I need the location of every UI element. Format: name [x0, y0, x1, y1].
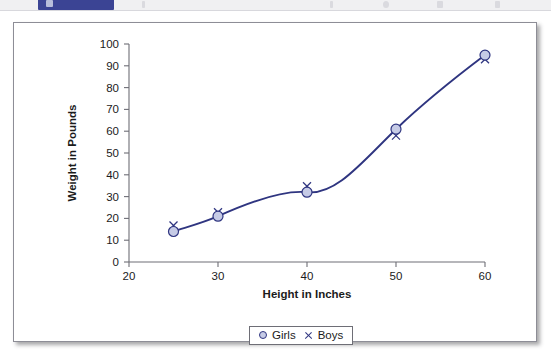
header-ghost-text-1: [142, 1, 145, 8]
series-boys-markers: [170, 55, 490, 229]
header-divider: [0, 10, 551, 11]
x-marker-icon: [304, 331, 313, 340]
x-axis-tick-labels: 20 30 40 50 60: [123, 270, 492, 282]
data-point-girls: [480, 50, 490, 60]
page-header-strip: [0, 0, 551, 11]
y-tick-label: 10: [106, 234, 119, 246]
circle-marker-icon: [259, 331, 267, 339]
legend-item-girls: Girls: [259, 329, 296, 341]
series-girls-markers: [169, 50, 491, 236]
x-tick-label: 50: [390, 270, 403, 282]
trend-line: [174, 55, 486, 231]
data-point-girls: [213, 211, 223, 221]
data-point-girls: [302, 187, 312, 197]
x-axis-title: Height in Inches: [263, 288, 352, 300]
header-ghost-text-2: [330, 1, 333, 8]
y-axis-title: Weight in Pounds: [66, 105, 78, 202]
data-point-girls: [391, 124, 401, 134]
x-tick-label: 60: [479, 270, 492, 282]
y-tick-label: 70: [106, 103, 119, 115]
y-tick-label: 90: [106, 60, 119, 72]
data-point-girls: [169, 227, 179, 237]
y-axis-ticks: [124, 44, 129, 262]
figure-frame: 100 90 80 70 60 50 40 30 20 10 0: [13, 22, 537, 342]
scatter-chart: 100 90 80 70 60 50 40 30 20 10 0: [14, 23, 538, 343]
y-tick-label: 100: [100, 38, 119, 50]
header-badge: [38, 0, 114, 10]
x-axis-ticks: [129, 262, 485, 267]
header-ghost-text-4: [437, 1, 443, 8]
y-tick-label: 40: [106, 169, 119, 181]
header-ghost-text-5: [495, 1, 500, 8]
y-tick-label: 80: [106, 82, 119, 94]
y-tick-label: 50: [106, 147, 119, 159]
chart-legend: Girls Boys: [249, 326, 353, 345]
y-tick-label: 30: [106, 191, 119, 203]
y-tick-label: 20: [106, 212, 119, 224]
y-tick-label: 60: [106, 125, 119, 137]
legend-item-boys: Boys: [304, 329, 344, 341]
x-tick-label: 30: [212, 270, 225, 282]
y-tick-label: 0: [113, 256, 119, 268]
legend-label-girls: Girls: [272, 329, 296, 341]
chart-canvas: 100 90 80 70 60 50 40 30 20 10 0: [14, 23, 538, 343]
x-tick-label: 40: [301, 270, 314, 282]
legend-label-boys: Boys: [318, 329, 344, 341]
header-badge-icon: [46, 0, 53, 7]
x-tick-label: 20: [123, 270, 136, 282]
header-ghost-text-3: [383, 1, 389, 8]
y-axis-tick-labels: 100 90 80 70 60 50 40 30 20 10 0: [100, 38, 119, 268]
